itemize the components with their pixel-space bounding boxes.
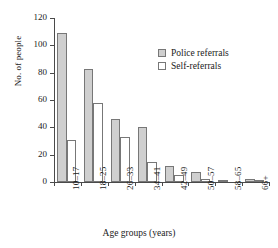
bar-police-referrals <box>191 172 201 182</box>
bar-group <box>136 18 163 182</box>
x-category-label: 42–49 <box>179 167 189 191</box>
legend-item: Police referrals <box>158 48 229 58</box>
bars-layer <box>55 18 269 182</box>
y-tick-label: 20 <box>38 149 47 160</box>
bar-police-referrals <box>245 179 255 182</box>
y-tick-label: 100 <box>34 39 48 50</box>
y-tick-label: 40 <box>38 121 47 132</box>
legend-label: Self-referrals <box>171 61 221 71</box>
legend-label: Police referrals <box>171 48 229 58</box>
x-category-label: 10–17 <box>71 167 81 191</box>
bar-police-referrals <box>165 166 175 182</box>
x-category-label: 18–25 <box>98 167 108 191</box>
bar-group <box>163 18 190 182</box>
bar-group <box>109 18 136 182</box>
x-category-label: 26–33 <box>125 167 135 191</box>
legend-item: Self-referrals <box>158 61 229 71</box>
x-tick <box>54 182 55 186</box>
bar-police-referrals <box>57 33 67 182</box>
bar-group <box>55 18 82 182</box>
x-tick <box>81 182 82 186</box>
x-axis-title: Age groups (years) <box>0 228 278 238</box>
bar-group <box>243 18 270 182</box>
legend: Police referralsSelf-referrals <box>158 48 229 74</box>
legend-swatch-icon <box>158 62 166 70</box>
bar-police-referrals <box>111 119 121 182</box>
bar-police-referrals <box>84 69 94 182</box>
y-tick-label: 60 <box>38 94 47 105</box>
bar-police-referrals <box>218 180 228 182</box>
legend-swatch-icon <box>158 49 166 57</box>
x-category-label: 66+ <box>260 175 270 190</box>
y-tick-label: 0 <box>43 176 48 187</box>
y-tick-label: 80 <box>38 67 47 78</box>
y-tick-label: 120 <box>34 12 48 23</box>
x-category-label: 50–57 <box>206 167 216 191</box>
plot-area: 020406080100120 10–1718–2526–3334–4142–4… <box>54 18 269 182</box>
bar-group <box>82 18 109 182</box>
bar-group <box>216 18 243 182</box>
bar-chart: No. of people 020406080100120 10–1718–25… <box>0 0 278 248</box>
bar-police-referrals <box>138 127 148 182</box>
x-category-label: 34–41 <box>152 167 162 191</box>
bar-group <box>189 18 216 182</box>
x-category-label: 58–65 <box>233 167 243 191</box>
y-axis-title: No. of people <box>13 1 23 121</box>
